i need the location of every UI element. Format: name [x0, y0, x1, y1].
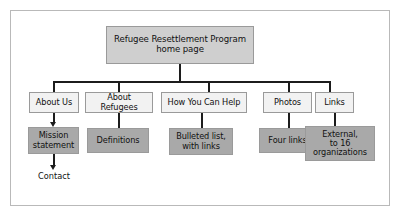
- connector-drop-photos: [288, 81, 290, 92]
- arrowhead-mission-to-contact: [50, 165, 56, 170]
- node-about-refugees-label: About Refugees: [86, 93, 152, 111]
- node-links[interactable]: Links: [315, 92, 354, 113]
- connector-drop-links: [329, 81, 331, 92]
- connector-photos-to-four-links: [288, 113, 290, 128]
- diagram-frame: Refugee Resettlement Program home page A…: [10, 10, 390, 206]
- connector-drop-about-us: [53, 81, 55, 92]
- node-about-refugees[interactable]: About Refugees: [85, 92, 153, 113]
- node-home-page-label: Refugee Resettlement Program home page: [112, 35, 248, 54]
- node-how-you-can-help[interactable]: How You Can Help: [161, 92, 247, 113]
- node-home-page[interactable]: Refugee Resettlement Program home page: [106, 26, 254, 64]
- connector-links-to-external: [334, 113, 336, 126]
- node-about-us[interactable]: About Us: [29, 92, 79, 113]
- node-external-organizations-label: External, to 16 organizations: [311, 130, 369, 158]
- node-about-us-label: About Us: [34, 98, 74, 107]
- connector-drop-how-you-can-help: [208, 81, 210, 92]
- node-bulleted-list[interactable]: Bulleted list, with links: [169, 128, 233, 155]
- node-contact-label[interactable]: Contact: [28, 172, 80, 181]
- node-links-label: Links: [322, 98, 347, 107]
- connector-how-you-can-help-to-bulleted-list: [201, 113, 203, 128]
- node-definitions[interactable]: Definitions: [87, 128, 149, 153]
- node-four-links-label: Four links: [266, 136, 308, 145]
- node-mission-statement[interactable]: Mission statement: [28, 127, 79, 154]
- node-definitions-label: Definitions: [95, 136, 142, 145]
- node-bulleted-list-label: Bulleted list, with links: [174, 132, 228, 150]
- connector-root-stem: [179, 64, 181, 82]
- node-photos-label: Photos: [272, 98, 303, 107]
- connector-drop-about-refugees: [118, 81, 120, 92]
- node-photos[interactable]: Photos: [263, 92, 312, 113]
- node-how-you-can-help-label: How You Can Help: [166, 98, 243, 107]
- node-mission-statement-label: Mission statement: [31, 131, 76, 149]
- node-external-organizations[interactable]: External, to 16 organizations: [305, 126, 375, 161]
- connector-about-refugees-to-definitions: [118, 113, 120, 128]
- sitemap-diagram: Refugee Resettlement Program home page A…: [0, 0, 402, 217]
